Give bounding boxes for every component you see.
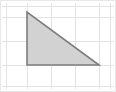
triangle-grid-figure xyxy=(0,0,116,92)
figure-container xyxy=(0,0,116,92)
